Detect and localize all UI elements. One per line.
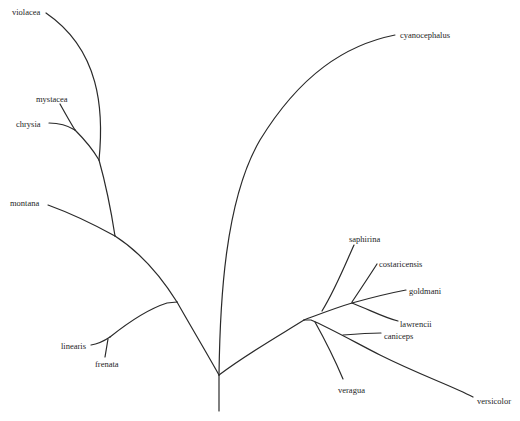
branch-left-stem — [177, 302, 219, 375]
branch-cyanocephalus — [219, 35, 395, 375]
branch-costaricensis — [352, 264, 377, 302]
taxon-label-costaricensis: costaricensis — [379, 260, 422, 269]
taxon-label-linearis: linearis — [61, 342, 86, 351]
branch-montana — [48, 205, 115, 236]
taxon-label-goldmani: goldmani — [409, 287, 441, 296]
branch-lawrencii — [352, 303, 398, 321]
branch-upper-clade — [99, 160, 115, 236]
taxon-label-saphirina: saphirina — [349, 235, 380, 244]
phylogenetic-tree — [0, 0, 520, 421]
branch-chrysia-mystacea — [75, 130, 99, 160]
branch-veragua — [315, 322, 343, 379]
branch-violacea — [46, 13, 101, 160]
branch-caniceps — [343, 333, 381, 335]
taxon-label-frenata: frenata — [95, 360, 119, 369]
taxon-label-cyanocephalus: cyanocephalus — [400, 31, 450, 40]
branch-left-upper — [115, 236, 177, 302]
branch-right-stem — [219, 320, 304, 375]
branch-linearis-frenata — [110, 302, 177, 337]
taxon-label-chrysia: chrysia — [16, 120, 41, 129]
branch-goldmani-group — [352, 290, 406, 303]
taxon-label-montana: montana — [10, 199, 39, 208]
taxon-label-lawrencii: lawrencii — [400, 320, 432, 329]
taxon-label-versicolor: versicolor — [477, 397, 511, 406]
branch-frenata — [105, 339, 108, 357]
taxon-label-mystacea: mystacea — [36, 95, 68, 104]
taxon-label-veragua: veragua — [338, 386, 365, 395]
branch-right-upper — [304, 303, 352, 320]
taxon-label-violacea: violacea — [12, 8, 40, 17]
branch-saphirina — [322, 245, 354, 311]
taxon-label-caniceps: caniceps — [384, 332, 413, 341]
